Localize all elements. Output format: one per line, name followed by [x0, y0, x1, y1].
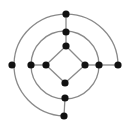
node-in-top [62, 42, 69, 49]
node-in-right [81, 61, 88, 68]
node-mid-bottom [61, 94, 68, 101]
node-mid-right [95, 61, 102, 68]
edge-in-left-in-top [46, 46, 66, 65]
edge-in-bottom-in-left [46, 65, 65, 83]
edge-in-right-in-bottom [65, 65, 85, 83]
edge-in-top-in-right [66, 46, 85, 65]
node-outer-bottom [60, 112, 67, 119]
graph-diagram [0, 0, 131, 128]
node-outer-left [8, 61, 15, 68]
node-in-left [42, 61, 49, 68]
node-mid-top [62, 28, 69, 35]
node-in-bottom [61, 79, 68, 86]
node-outer-top [62, 10, 69, 17]
node-mid-left [27, 61, 34, 68]
node-outer-right [114, 61, 121, 68]
